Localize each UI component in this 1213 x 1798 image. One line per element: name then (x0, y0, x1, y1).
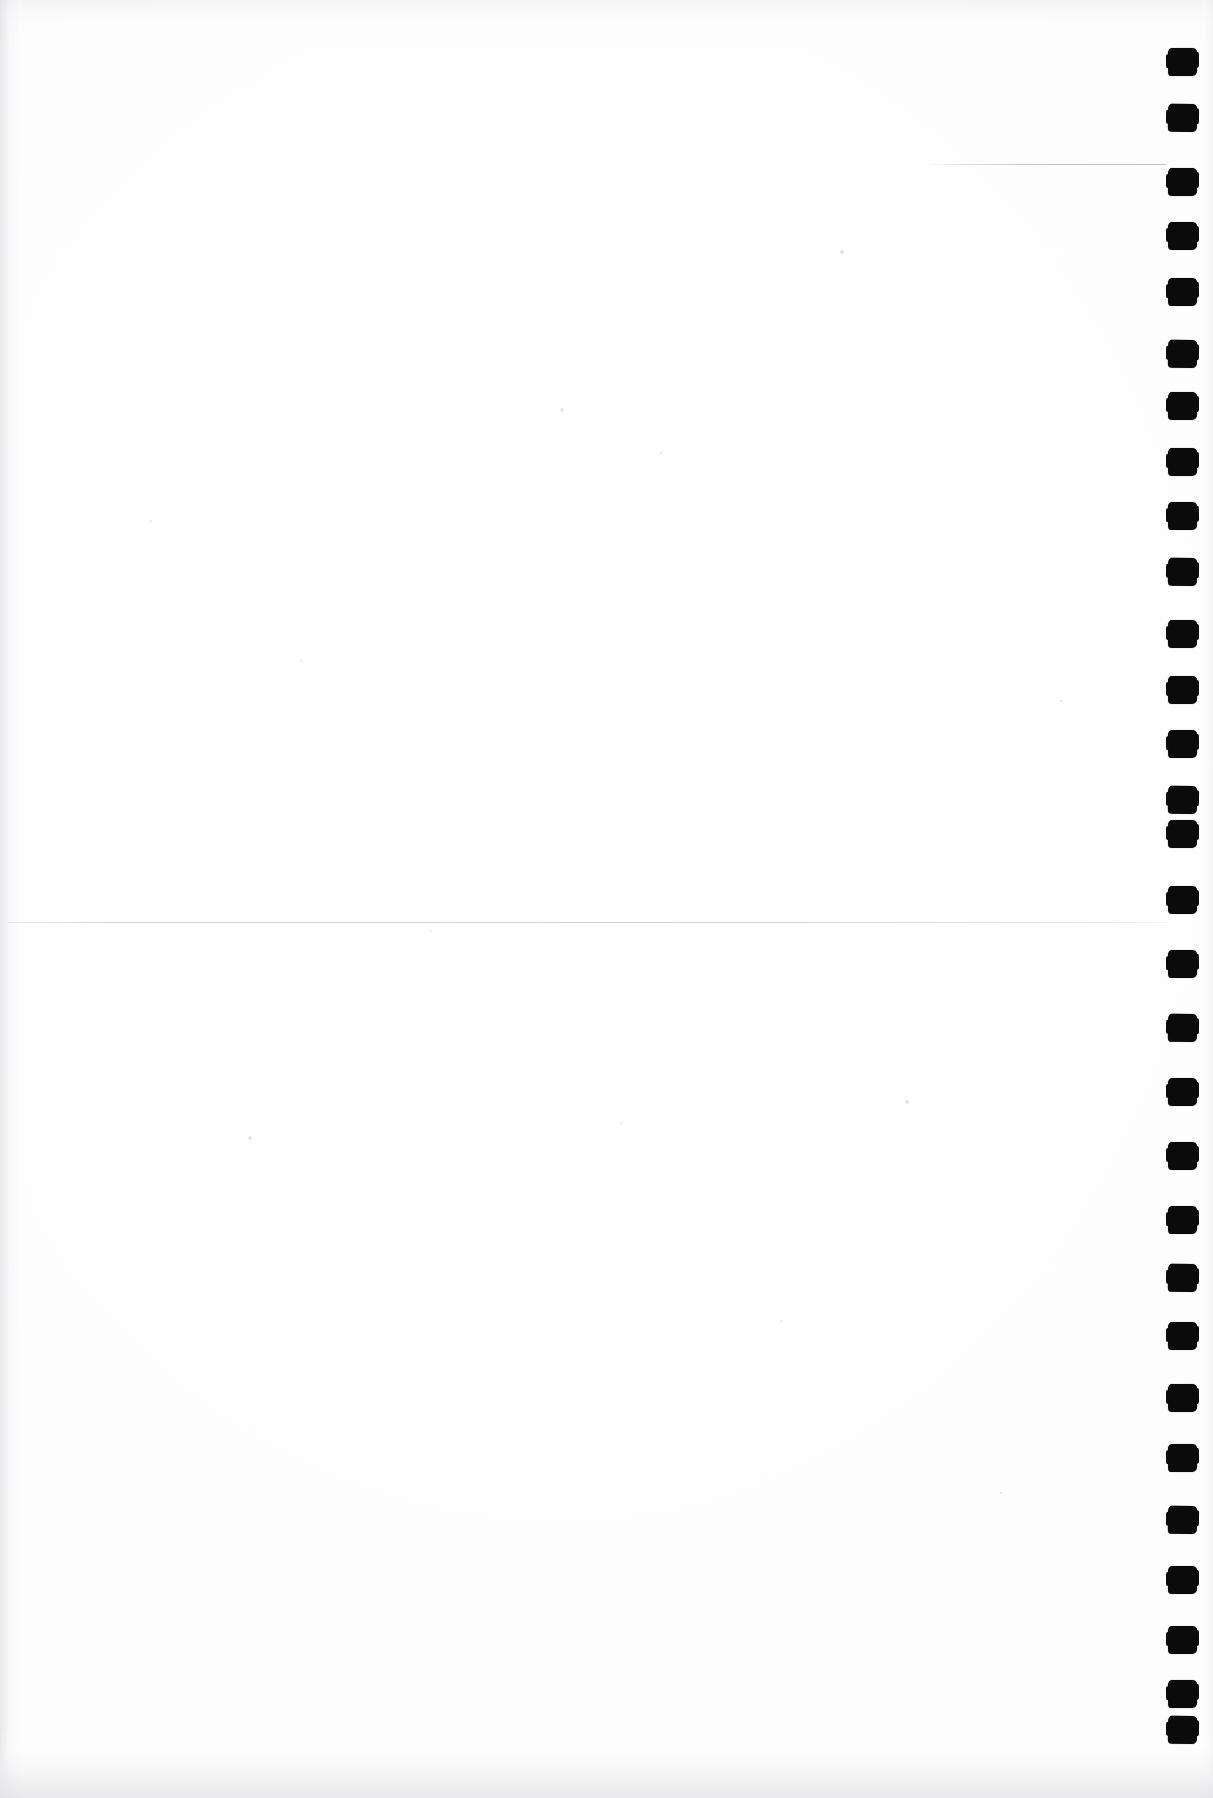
sprocket-mark (1168, 340, 1197, 368)
sprocket-mark (1168, 1264, 1197, 1292)
sprocket-mark (1168, 1322, 1197, 1350)
sprocket-mark (1168, 278, 1197, 306)
scan-edge-shadow-top (0, 0, 1213, 46)
sprocket-mark (1168, 1384, 1197, 1412)
sprocket-mark (1168, 168, 1197, 196)
sprocket-mark (1168, 1626, 1197, 1654)
sprocket-mark (1168, 1206, 1197, 1234)
sprocket-mark (1168, 1506, 1197, 1534)
sprocket-mark (1168, 730, 1197, 758)
sprocket-mark (1168, 222, 1197, 250)
scan-edge-shadow-left (0, 0, 26, 1798)
scan-edge-shadow-bottom (0, 1728, 1213, 1798)
sprocket-mark (1168, 786, 1197, 814)
sprocket-mark-column (1168, 0, 1208, 1798)
sprocket-mark (1168, 1078, 1197, 1106)
sprocket-mark (1168, 1566, 1197, 1594)
sprocket-mark (1168, 502, 1197, 530)
sprocket-mark (1168, 1716, 1197, 1744)
sprocket-mark (1168, 1142, 1197, 1170)
sprocket-mark (1168, 104, 1197, 132)
sprocket-mark (1168, 620, 1197, 648)
sprocket-mark (1168, 886, 1197, 914)
sprocket-mark (1168, 1014, 1197, 1042)
sprocket-mark (1168, 448, 1197, 476)
sprocket-mark (1168, 392, 1197, 420)
scanned-page (0, 0, 1213, 1798)
sprocket-mark (1168, 558, 1197, 586)
sprocket-mark (1168, 1680, 1197, 1708)
sprocket-mark (1168, 676, 1197, 704)
sprocket-mark (1168, 820, 1197, 848)
sprocket-mark (1168, 48, 1197, 76)
sprocket-mark (1168, 950, 1197, 978)
sprocket-mark (1168, 1444, 1197, 1472)
document-content-area (26, 46, 1146, 1726)
